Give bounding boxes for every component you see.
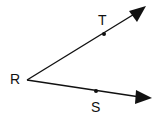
label-s: S [91, 99, 100, 115]
ray-rt-line [27, 13, 136, 80]
point-t [102, 32, 106, 36]
arrowhead-t-icon [129, 6, 146, 22]
label-r: R [10, 71, 20, 87]
label-t: T [98, 12, 107, 28]
ray-rs-line [27, 80, 140, 97]
point-s [94, 89, 98, 93]
arrowhead-s-icon [135, 90, 152, 104]
angle-diagram: R T S [0, 0, 159, 115]
